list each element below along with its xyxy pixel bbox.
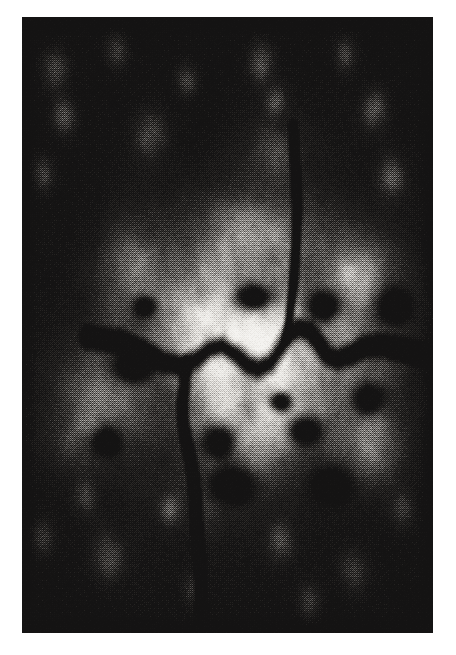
- raster-canvas: [22, 17, 433, 633]
- satellite-raster-image: [22, 17, 433, 633]
